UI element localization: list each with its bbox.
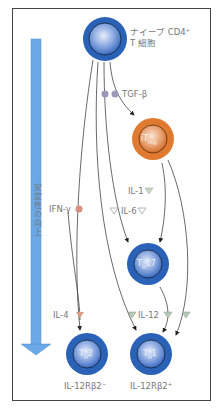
pathway-lines	[68, 60, 188, 335]
th1-cell-label: TH1	[143, 349, 157, 362]
ifn-dot	[76, 206, 83, 213]
th17-cell-label: TH17	[137, 259, 156, 272]
il1-label: IL-1	[128, 186, 144, 196]
ifn-gamma-label: IFN-γ	[49, 204, 71, 214]
il1-triangle	[145, 188, 153, 194]
naive-cell-label-line2: T 細胞	[130, 38, 156, 48]
il4-label: IL-4	[53, 310, 69, 320]
naive-cell	[83, 17, 127, 61]
th2-cell-label: TH2	[79, 349, 93, 362]
tgf-dot-2	[112, 91, 119, 98]
cytokine-markers	[76, 91, 191, 319]
tgf-beta-label: TGF-β	[122, 89, 147, 99]
il6-label: IL-6	[121, 206, 137, 216]
naive-cell-label-line1: ナイーブ CD4⁺	[130, 27, 190, 37]
il12-triangle-far	[182, 312, 190, 318]
stability-axis-label: 安定性の向上	[31, 183, 42, 237]
il4-triangle	[76, 312, 84, 318]
il12-label: IL-12	[138, 310, 159, 320]
il12-triangle-right	[164, 312, 172, 318]
tgf-dot-1	[102, 91, 109, 98]
th2-receptor-label: IL-12Rβ2⁻	[64, 381, 106, 391]
th1-receptor-label: IL-12Rβ2⁺	[130, 381, 172, 391]
il6-triangle-right	[138, 208, 146, 214]
itreg-cell-label: iTreg	[141, 134, 156, 147]
il6-triangle-left	[110, 208, 118, 214]
